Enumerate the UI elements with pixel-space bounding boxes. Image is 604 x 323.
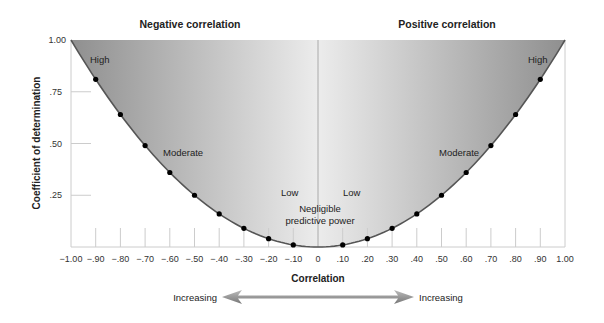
data-point: [439, 193, 444, 198]
label-negligible: Negligible: [299, 203, 341, 214]
data-point: [291, 242, 296, 247]
title-positive-correlation: Positive correlation: [398, 18, 495, 30]
data-point: [266, 236, 271, 241]
x-tick-label: .20: [361, 254, 374, 264]
data-point: [488, 143, 493, 148]
y-tick-label: 1.00: [48, 35, 66, 45]
data-point: [217, 211, 222, 216]
data-point: [538, 77, 543, 82]
y-tick-label: .50: [49, 139, 62, 149]
correlation-chart: Negative correlation Positive correlatio…: [0, 0, 604, 323]
x-tick-label: .30: [386, 254, 399, 264]
arrow-label-left: Increasing: [173, 292, 217, 303]
x-tick-label: −.60: [161, 254, 179, 264]
x-tick-label: .10: [336, 254, 349, 264]
data-point: [365, 236, 370, 241]
data-point: [414, 211, 419, 216]
x-tick-label: −.50: [186, 254, 204, 264]
x-tick-label: −.30: [235, 254, 253, 264]
y-axis-title: Coefficient of determination: [31, 77, 42, 210]
x-tick-label: .70: [485, 254, 498, 264]
label-high-right: High: [528, 54, 548, 65]
label-predictive-power: predictive power: [285, 215, 354, 226]
x-tick-label: .50: [435, 254, 448, 264]
y-tick-label: .75: [49, 87, 62, 97]
data-point: [192, 193, 197, 198]
x-tick-label: .40: [411, 254, 424, 264]
data-point: [241, 226, 246, 231]
x-tick-label: .60: [460, 254, 473, 264]
x-tick-label: .90: [534, 254, 547, 264]
label-moderate-right: Moderate: [439, 147, 479, 158]
data-point: [93, 77, 98, 82]
fill-positive: [318, 40, 565, 247]
label-moderate-left: Moderate: [163, 147, 203, 158]
x-tick-label: −.90: [87, 254, 105, 264]
x-axis-title: Correlation: [291, 273, 344, 284]
arrow-label-right: Increasing: [419, 292, 463, 303]
x-tick-label: −1.00: [60, 254, 83, 264]
label-low-right: Low: [343, 187, 361, 198]
x-tick-label: −.80: [112, 254, 130, 264]
label-low-left: Low: [281, 187, 299, 198]
x-tick-label: −.40: [210, 254, 228, 264]
double-arrow-icon: [222, 290, 414, 304]
y-tick-label: .25: [49, 190, 62, 200]
fill-negative: [71, 40, 318, 247]
data-point: [340, 242, 345, 247]
title-negative-correlation: Negative correlation: [140, 18, 241, 30]
x-tick-label: −.70: [136, 254, 154, 264]
x-tick-label: 1.00: [556, 254, 574, 264]
x-tick-label: −.20: [260, 254, 278, 264]
x-tick-label: 0: [315, 254, 320, 264]
data-point: [143, 143, 148, 148]
label-high-left: High: [90, 54, 110, 65]
data-point: [390, 226, 395, 231]
data-point: [513, 112, 518, 117]
data-point: [464, 170, 469, 175]
x-tick-label: .80: [509, 254, 522, 264]
x-tick-label: −.10: [284, 254, 302, 264]
data-point: [118, 112, 123, 117]
data-point: [167, 170, 172, 175]
